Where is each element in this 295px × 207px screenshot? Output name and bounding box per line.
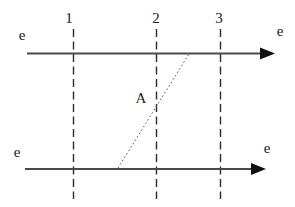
bottom-electron-label-right: e	[264, 140, 271, 156]
time-slice-3: 3	[215, 10, 223, 199]
feynman-diagram: 1 2 3 A e e e e	[0, 0, 295, 207]
exchange-line-group: A	[118, 54, 189, 168]
top-electron-label-right: e	[277, 23, 284, 39]
bottom-electron-worldline: e e	[14, 140, 271, 175]
top-electron-label-left: e	[19, 27, 26, 43]
time-slice-label-1: 1	[65, 10, 73, 26]
arrow-right-icon	[260, 48, 275, 60]
exchange-line	[118, 54, 189, 168]
time-slice-1: 1	[65, 10, 73, 199]
bottom-electron-label-left: e	[14, 144, 21, 160]
time-slice-label-3: 3	[215, 10, 223, 26]
arrow-right-icon	[251, 163, 266, 175]
top-electron-worldline: e e	[19, 23, 284, 60]
diagram-canvas: 1 2 3 A e e e e	[0, 0, 295, 207]
time-slice-label-2: 2	[152, 10, 160, 26]
vertex-label-A: A	[136, 90, 147, 106]
time-slice-2: 2	[152, 10, 160, 199]
